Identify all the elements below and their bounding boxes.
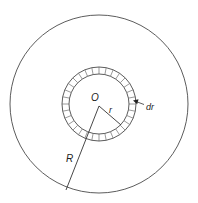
ring-divider (65, 90, 71, 93)
ring-divider (73, 125, 78, 130)
ring-divider (63, 110, 70, 111)
diagram: O r R dr (0, 0, 198, 203)
ring-inner-edge (69, 74, 129, 134)
label-r: r (109, 105, 113, 115)
ring-divider (78, 73, 82, 79)
ring-divider (85, 70, 88, 76)
ring-divider (105, 68, 106, 75)
label-center-O: O (91, 92, 99, 103)
ring-divider (127, 90, 133, 93)
ring-divider (127, 115, 133, 118)
ring-divider (128, 110, 135, 111)
outer-circle (10, 15, 188, 193)
ring-divider (65, 115, 71, 118)
label-dr: dr (146, 102, 155, 112)
label-R: R (66, 153, 73, 164)
ring-divider (116, 73, 120, 79)
ring-divider (105, 133, 106, 140)
ring-divider (120, 125, 125, 130)
ring-divider (68, 83, 74, 87)
radius-R-line (66, 106, 99, 190)
ring-divider (92, 68, 93, 75)
ring-divider (120, 78, 125, 83)
ring-divider (73, 78, 78, 83)
ring-divider (116, 129, 120, 135)
ring-divider (128, 97, 135, 98)
annular-ring (62, 67, 136, 141)
ring-segment-dividers (62, 67, 136, 141)
ring-divider (124, 121, 130, 125)
ring-divider (63, 97, 70, 98)
ring-divider (78, 129, 82, 135)
ring-divider (68, 121, 74, 125)
ring-divider (124, 83, 130, 87)
ring-divider (110, 70, 113, 76)
ring-divider (92, 133, 93, 140)
ring-divider (110, 132, 113, 138)
